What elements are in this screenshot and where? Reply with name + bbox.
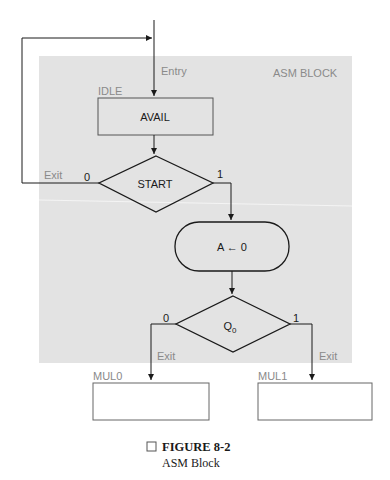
state-name-idle: IDLE bbox=[98, 85, 122, 97]
figure-subtitle: ASM Block bbox=[162, 456, 220, 470]
exit-label-right: Exit bbox=[319, 350, 337, 362]
next-state-name-mul1: MUL1 bbox=[258, 370, 287, 382]
decision-start-text: START bbox=[137, 178, 172, 190]
next-state-box-mul1 bbox=[258, 383, 372, 420]
caption-box-icon bbox=[147, 442, 156, 451]
decision-q0-true-label: 1 bbox=[293, 312, 299, 324]
asm-block-region bbox=[39, 56, 352, 363]
conditional-output-text: A ← 0 bbox=[217, 241, 247, 253]
decision-start-true-label: 1 bbox=[217, 168, 223, 180]
exit-label-left: Exit bbox=[157, 350, 175, 362]
state-box-text: AVAIL bbox=[140, 111, 170, 123]
asm-block-label: ASM BLOCK bbox=[273, 67, 338, 79]
next-state-box-mul0 bbox=[93, 383, 209, 420]
entry-label: Entry bbox=[161, 65, 187, 77]
exit-label-start: Exit bbox=[44, 169, 62, 181]
figure-title: FIGURE 8-2 bbox=[162, 440, 230, 454]
next-state-name-mul0: MUL0 bbox=[93, 370, 122, 382]
asm-block-diagram: Entry ASM BLOCK IDLE AVAIL START 0 1 Exi… bbox=[0, 0, 390, 480]
decision-start-false-label: 0 bbox=[84, 171, 90, 183]
decision-q0-false-label: 0 bbox=[163, 312, 169, 324]
